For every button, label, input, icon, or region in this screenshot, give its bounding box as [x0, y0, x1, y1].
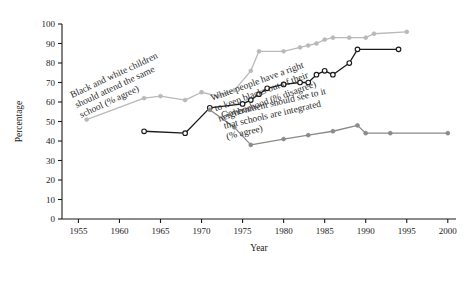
data-point: [331, 129, 335, 133]
data-point: [183, 98, 187, 102]
y-tick-label: 60: [46, 97, 56, 107]
data-point: [372, 32, 376, 36]
data-point: [159, 94, 163, 98]
x-tick-label: 1985: [316, 226, 335, 236]
y-tick-label: 50: [46, 117, 56, 127]
x-tick-label: 1955: [69, 226, 88, 236]
data-point: [142, 96, 146, 100]
data-point: [306, 44, 310, 48]
x-tick-label: 1990: [357, 226, 376, 236]
y-tick-label: 80: [46, 58, 56, 68]
data-point: [331, 72, 336, 77]
x-tick-label: 1960: [110, 226, 129, 236]
data-point: [298, 46, 302, 50]
data-point: [142, 129, 147, 134]
data-point: [355, 47, 360, 52]
data-point: [249, 143, 253, 147]
data-point: [331, 36, 335, 40]
data-point: [315, 42, 319, 46]
x-tick-label: 1980: [275, 226, 294, 236]
line-chart: 0102030405060708090100 19551960196519701…: [0, 0, 470, 284]
data-point: [347, 36, 351, 40]
data-point: [183, 131, 188, 136]
data-point: [249, 69, 253, 73]
data-point: [323, 38, 327, 42]
data-point: [364, 131, 368, 135]
data-point: [405, 30, 409, 34]
y-tick-label: 70: [46, 78, 56, 88]
y-tick-label: 20: [46, 175, 56, 185]
data-point: [257, 49, 261, 53]
x-axis-title: Year: [250, 243, 268, 253]
y-tick-label: 30: [46, 156, 56, 166]
chart-background: [0, 0, 470, 284]
x-tick-label: 2000: [439, 226, 458, 236]
data-point: [322, 69, 327, 74]
data-point: [200, 90, 204, 94]
data-point: [388, 131, 392, 135]
data-point: [446, 131, 450, 135]
data-point: [208, 108, 212, 112]
data-point: [306, 133, 310, 137]
x-tick-label: 1970: [193, 226, 212, 236]
x-tick-label: 1975: [234, 226, 253, 236]
data-point: [356, 124, 360, 128]
data-point: [282, 137, 286, 141]
data-point: [314, 72, 319, 77]
x-tick-label: 1995: [398, 226, 417, 236]
data-point: [396, 47, 401, 52]
y-tick-label: 40: [46, 136, 56, 146]
data-point: [347, 61, 352, 66]
y-tick-label: 10: [46, 195, 56, 205]
chart-container: 0102030405060708090100 19551960196519701…: [0, 0, 470, 284]
data-point: [282, 49, 286, 53]
y-tick-label: 90: [46, 39, 56, 49]
y-axis-title: Percentage: [14, 101, 24, 143]
x-tick-label: 1965: [152, 226, 171, 236]
y-tick-label: 0: [51, 214, 56, 224]
y-tick-label: 100: [42, 19, 56, 29]
data-point: [364, 36, 368, 40]
